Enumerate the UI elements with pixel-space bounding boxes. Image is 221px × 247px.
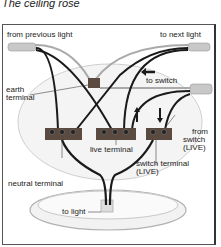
cable-sheath-previous <box>8 43 36 51</box>
label-to-next-light: to next light <box>160 31 201 39</box>
switch-terminal-block <box>146 128 172 140</box>
label-from-previous-light: from previous light <box>7 31 72 39</box>
label-to-switch: to switch <box>146 77 177 85</box>
label-to-light: to light <box>62 208 86 216</box>
cable-sheath-next <box>188 43 210 51</box>
label-from-switch-3: (LIVE) <box>183 144 206 152</box>
cable-sheath-switch <box>190 84 212 94</box>
label-switch-terminal-2: (LIVE) <box>136 168 159 176</box>
label-live-terminal: live terminal <box>90 146 133 154</box>
label-neutral-terminal: neutral terminal <box>8 180 63 188</box>
label-earth-terminal-2: terminal <box>6 94 34 102</box>
earth-terminal-block <box>88 78 100 88</box>
